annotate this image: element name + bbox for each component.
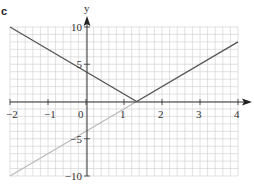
- y-tick-label: −5: [70, 133, 82, 145]
- x-tick-label: 2: [158, 108, 164, 120]
- x-tick-label: 4: [234, 108, 240, 120]
- x-tick-label: 0: [78, 108, 84, 120]
- line-chart: c y −2−101234105−5−10: [0, 0, 254, 186]
- x-tick-label: −2: [6, 108, 18, 120]
- x-tick-label: −1: [44, 108, 56, 120]
- axes: y: [10, 2, 252, 176]
- panel-label: c: [1, 5, 7, 17]
- x-tick-label: 3: [196, 108, 202, 120]
- y-tick-label: 5: [77, 58, 83, 70]
- x-tick-label: 1: [120, 108, 126, 120]
- y-tick-label: −10: [65, 170, 83, 182]
- y-axis-label: y: [84, 2, 90, 14]
- y-tick-label: 10: [71, 21, 83, 33]
